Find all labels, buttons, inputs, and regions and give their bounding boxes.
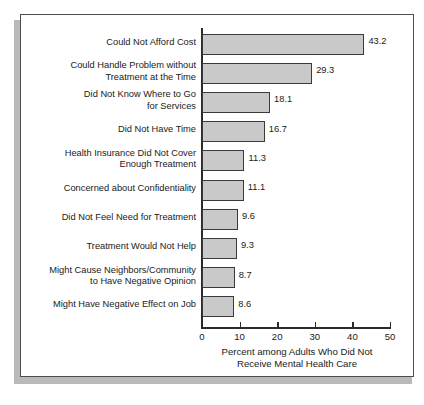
bar [202,34,364,55]
bar-row: Did Not Know Where to Go for Services18.… [0,88,424,117]
bar-value-label: 11.1 [248,182,265,193]
bar-category-label: Might Cause Neighbors/Community to Have … [16,265,196,288]
x-axis-title: Percent among Adults Who Did Not Receive… [202,346,392,371]
bar-value-label: 8.7 [239,270,252,281]
bar-row: Did Not Feel Need for Treatment9.6 [0,205,424,234]
x-axis-tick-label: 50 [385,331,396,342]
bar-value-label: 18.1 [274,94,292,105]
bar [202,267,235,288]
bar-row: Treatment Would Not Help9.3 [0,234,424,263]
bar-category-label: Did Not Feel Need for Treatment [16,212,196,224]
x-axis-line [201,327,391,329]
bar-category-label: Did Not Know Where to Go for Services [16,89,196,112]
bar [202,63,312,84]
x-axis-tick [202,322,203,328]
bar-value-label: 8.6 [238,299,251,310]
bar-value-label: 29.3 [316,65,334,76]
bar-category-label: Health Insurance Did Not Cover Enough Tr… [16,148,196,171]
x-axis-tick-label: 40 [347,331,358,342]
x-axis-tick-label: 10 [234,331,245,342]
x-axis-tick [390,322,391,328]
bar-row: Might Cause Neighbors/Community to Have … [0,264,424,293]
bar-category-label: Could Not Afford Cost [16,37,196,49]
x-axis-tick-label: 30 [309,331,320,342]
bar [202,180,244,201]
bar [202,121,265,142]
bar [202,150,244,171]
bar-value-label: 9.6 [242,211,255,222]
bar-category-label: Concerned about Confidentiality [16,183,196,195]
bar [202,209,238,230]
bar-value-label: 11.3 [248,153,265,164]
bar-category-label: Treatment Would Not Help [16,241,196,253]
bar-category-label: Could Handle Problem without Treatment a… [16,60,196,83]
bar-row: Could Not Afford Cost43.2 [0,30,424,59]
bar-category-label: Did Not Have Time [16,124,196,136]
x-axis-tick [240,322,241,328]
bar [202,296,234,317]
bar-value-label: 9.3 [241,240,254,251]
bar-value-label: 43.2 [368,36,386,47]
bar-chart-plot-area: Could Not Afford Cost43.2Could Handle Pr… [0,0,424,405]
x-axis-tick [277,322,278,328]
x-axis-tick-label: 20 [272,331,283,342]
bar-row: Could Handle Problem without Treatment a… [0,59,424,88]
bar-row: Did Not Have Time16.7 [0,118,424,147]
x-axis-tick [315,322,316,328]
bar-category-label: Might Have Negative Effect on Job [16,299,196,311]
x-axis-tick [352,322,353,328]
bar-row: Health Insurance Did Not Cover Enough Tr… [0,147,424,176]
bar [202,238,237,259]
bar [202,92,270,113]
bar-row: Might Have Negative Effect on Job8.6 [0,293,424,322]
x-axis-tick-label: 0 [199,331,204,342]
bar-row: Concerned about Confidentiality11.1 [0,176,424,205]
bar-value-label: 16.7 [269,124,287,135]
